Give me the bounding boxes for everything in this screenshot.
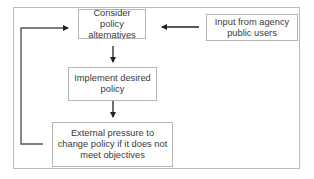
node-label: Consider policy alternatives bbox=[82, 8, 142, 41]
node-label: External pressure to change policy if it… bbox=[56, 128, 169, 161]
node-label: Implement desired policy bbox=[72, 73, 153, 95]
node-label: Input from agency public users bbox=[210, 17, 294, 39]
node-external-pressure: External pressure to change policy if it… bbox=[52, 122, 173, 167]
node-input-from-agency-public-users: Input from agency public users bbox=[206, 14, 298, 41]
node-consider-policy-alternatives: Consider policy alternatives bbox=[78, 9, 146, 39]
node-implement-desired-policy: Implement desired policy bbox=[68, 67, 157, 101]
